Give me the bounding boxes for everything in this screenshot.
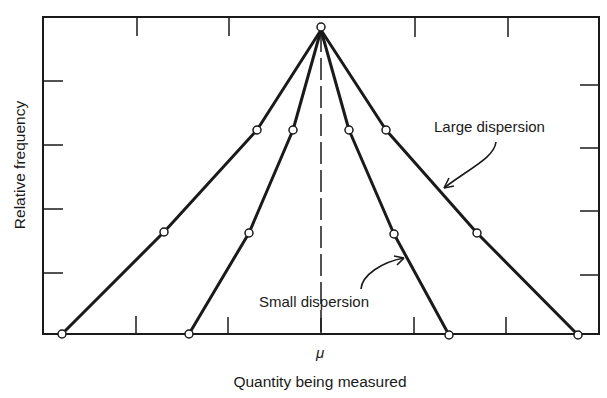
series-large-dispersion xyxy=(62,30,578,335)
large-dispersion-arrow xyxy=(444,142,496,188)
right-ticks xyxy=(580,85,599,275)
y-axis-ticks xyxy=(43,81,63,273)
x-axis-label: Quantity being measured xyxy=(233,373,406,390)
small-dispersion-arrow xyxy=(361,256,404,289)
large-dispersion-label: Large dispersion xyxy=(434,118,545,135)
mean-tick-label: μ xyxy=(315,344,324,361)
y-axis-label: Relative frequency xyxy=(11,101,28,230)
peak-marker xyxy=(317,23,325,31)
series-small-dispersion xyxy=(189,30,449,335)
small-dispersion-label: Small dispersion xyxy=(259,293,369,310)
dispersion-chart: Large dispersion Small dispersion μ Quan… xyxy=(0,0,607,398)
